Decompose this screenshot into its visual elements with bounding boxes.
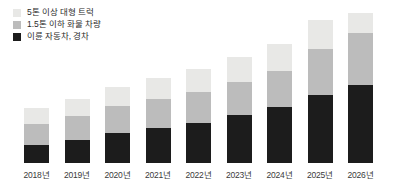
bar-group — [186, 69, 211, 163]
bar-segment — [186, 92, 211, 123]
bar-segment — [308, 49, 333, 95]
bar-group — [105, 87, 130, 163]
bar-segment — [105, 133, 130, 163]
bar-segment — [146, 99, 171, 128]
bar-group — [267, 44, 292, 163]
stacked-bar-chart: 5톤 이상 대형 트럭 1.5톤 이하 화물 차량 이륜 자동차, 경차 201… — [0, 0, 397, 188]
bar-segment — [348, 85, 373, 163]
bar-segment — [348, 33, 373, 85]
bar-stack — [146, 78, 171, 163]
x-axis-label: 2026년 — [333, 168, 388, 180]
bar-stack — [348, 13, 373, 163]
bar-group — [24, 108, 49, 163]
bar-segment — [105, 106, 130, 133]
bar-group — [146, 78, 171, 163]
plot-area: 2018년2019년2020년2021년2022년2023년2024년2025년… — [0, 0, 397, 188]
bar-segment — [65, 140, 90, 163]
bar-group — [65, 99, 90, 163]
bar-segment — [146, 78, 171, 99]
bar-segment — [186, 69, 211, 92]
bar-segment — [24, 124, 49, 145]
bar-segment — [308, 20, 333, 49]
bar-segment — [267, 71, 292, 107]
bar-stack — [186, 69, 211, 163]
bar-segment — [227, 115, 252, 163]
bar-group — [227, 57, 252, 163]
bar-segment — [227, 82, 252, 115]
bar-stack — [24, 108, 49, 163]
bar-segment — [24, 145, 49, 163]
bar-segment — [146, 128, 171, 163]
bar-segment — [65, 116, 90, 140]
bar-segment — [186, 123, 211, 163]
bar-segment — [308, 95, 333, 163]
bar-segment — [267, 107, 292, 163]
bar-stack — [227, 57, 252, 163]
bar-stack — [105, 87, 130, 163]
bar-stack — [65, 99, 90, 163]
bar-segment — [65, 99, 90, 116]
bar-segment — [227, 57, 252, 82]
bar-group — [308, 20, 333, 163]
bar-group — [348, 13, 373, 163]
bar-segment — [24, 108, 49, 124]
bar-stack — [267, 44, 292, 163]
bar-segment — [267, 44, 292, 71]
bar-segment — [105, 87, 130, 106]
bar-stack — [308, 20, 333, 163]
bar-segment — [348, 13, 373, 33]
